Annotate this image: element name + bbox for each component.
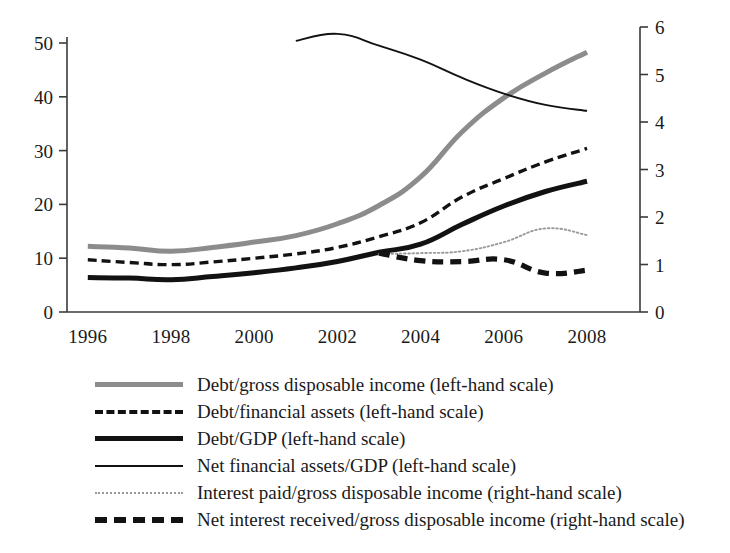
y-axis-left-tick-label: 20 <box>34 194 53 215</box>
legend-swatch-debt-financial-assets <box>95 405 183 419</box>
legend-item: Debt/gross disposable income (left-hand … <box>95 371 715 398</box>
chart-figure: 0102030405001234561996199820002002200420… <box>0 0 730 553</box>
y-axis-left-tick-label: 0 <box>44 302 54 323</box>
x-axis-tick-label: 2002 <box>318 326 357 347</box>
x-axis-tick-label: 2006 <box>484 326 523 347</box>
chart-series-line <box>88 52 587 251</box>
x-axis-tick-label: 2004 <box>401 326 440 347</box>
legend-item-label: Debt/gross disposable income (left-hand … <box>197 374 554 395</box>
y-axis-right-tick-label: 0 <box>655 302 665 323</box>
y-axis-left-tick-label: 40 <box>34 87 53 108</box>
x-axis-tick-label: 2008 <box>567 326 606 347</box>
x-axis-tick-label: 1996 <box>68 326 107 347</box>
legend-item: Interest paid/gross disposable income (r… <box>95 479 715 506</box>
x-axis-tick-label: 1998 <box>151 326 190 347</box>
chart-series-line <box>379 253 587 274</box>
x-axis-tick-label: 2000 <box>235 326 274 347</box>
chart-series-line <box>88 148 587 264</box>
chart-series-line <box>379 228 587 254</box>
legend-item-label: Interest paid/gross disposable income (r… <box>197 482 622 503</box>
y-axis-right-tick-label: 5 <box>655 65 665 86</box>
legend-swatch-net-financial-assets-gdp <box>95 459 183 473</box>
y-axis-right-tick-label: 1 <box>655 255 665 276</box>
y-axis-right-tick-label: 6 <box>655 17 665 38</box>
y-axis-right-tick-label: 3 <box>655 160 665 181</box>
legend-swatch-debt-gross-disposable-income <box>95 378 183 392</box>
legend-item-label: Debt/GDP (left-hand scale) <box>197 428 405 449</box>
legend-swatch-net-interest-received <box>95 513 183 527</box>
y-axis-right-tick-label: 4 <box>655 112 665 133</box>
y-axis-right-tick-label: 2 <box>655 207 665 228</box>
legend-item-label: Net financial assets/GDP (left-hand scal… <box>197 455 516 476</box>
legend-item: Debt/GDP (left-hand scale) <box>95 425 715 452</box>
legend-item: Debt/financial assets (left-hand scale) <box>95 398 715 425</box>
legend-item: Net interest received/gross disposable i… <box>95 506 715 533</box>
legend-swatch-interest-paid <box>95 486 183 500</box>
y-axis-left-tick-label: 50 <box>34 33 53 54</box>
legend-item: Net financial assets/GDP (left-hand scal… <box>95 452 715 479</box>
y-axis-left-tick-label: 30 <box>34 141 53 162</box>
legend-item-label: Debt/financial assets (left-hand scale) <box>197 401 483 422</box>
legend-swatch-debt-gdp <box>95 432 183 446</box>
y-axis-left-tick-label: 10 <box>34 248 53 269</box>
legend-item-label: Net interest received/gross disposable i… <box>197 509 685 530</box>
chart-legend: Debt/gross disposable income (left-hand … <box>95 371 715 533</box>
